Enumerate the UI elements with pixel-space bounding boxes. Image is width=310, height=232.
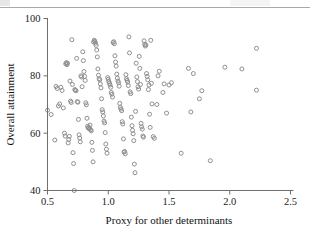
data-point — [129, 115, 133, 119]
y-tick-label: 80 — [30, 70, 41, 81]
data-point — [82, 70, 86, 74]
data-point — [100, 97, 104, 101]
data-point — [118, 101, 122, 105]
data-point — [70, 82, 74, 86]
data-point — [157, 69, 161, 73]
data-point — [208, 159, 212, 163]
data-point — [254, 46, 258, 50]
x-tick-label: 2.5 — [284, 196, 297, 207]
data-point — [101, 114, 105, 118]
data-point — [99, 86, 103, 90]
data-point — [71, 151, 75, 155]
data-point — [134, 61, 138, 65]
data-point — [223, 65, 227, 69]
data-point — [104, 147, 108, 151]
data-point — [70, 38, 74, 42]
data-point — [189, 110, 193, 114]
data-point — [186, 66, 190, 70]
data-point — [49, 113, 53, 117]
x-tick-label: 2.0 — [223, 196, 236, 207]
data-point — [83, 78, 87, 82]
x-axis-title: Proxy for other determinants — [106, 214, 233, 226]
data-point — [91, 160, 95, 164]
page-header-ghost-text — [0, 0, 310, 6]
data-point — [155, 103, 159, 107]
y-tick-label: 100 — [25, 13, 41, 24]
data-point — [53, 138, 57, 142]
y-tick-label: 40 — [30, 185, 41, 196]
data-point — [132, 162, 136, 166]
data-point — [149, 38, 153, 42]
data-point — [121, 137, 125, 141]
data-point — [138, 82, 142, 86]
axes-layer — [44, 18, 294, 195]
data-point — [240, 67, 244, 71]
data-point — [95, 55, 99, 59]
data-point — [197, 97, 201, 101]
data-point — [90, 140, 94, 144]
data-point — [200, 89, 204, 93]
data-point — [115, 72, 119, 76]
data-point — [128, 51, 132, 55]
data-point — [81, 59, 85, 63]
data-point — [96, 67, 100, 71]
data-point — [167, 83, 171, 87]
data-point — [138, 66, 142, 70]
data-point — [130, 124, 134, 128]
data-point — [72, 162, 76, 166]
data-point — [124, 73, 128, 77]
data-points-layer — [46, 35, 259, 193]
data-point — [146, 88, 150, 92]
data-point — [254, 88, 258, 92]
data-point — [135, 75, 139, 79]
x-tick-label: 0.5 — [41, 196, 54, 207]
data-point — [165, 111, 169, 115]
data-point — [114, 60, 118, 64]
data-point — [156, 74, 160, 78]
data-point — [127, 35, 131, 39]
data-point — [169, 81, 173, 85]
data-point — [76, 117, 80, 121]
data-point — [104, 142, 108, 146]
data-point — [61, 106, 65, 110]
data-point — [150, 102, 154, 106]
data-point — [85, 116, 89, 120]
data-point — [161, 90, 165, 94]
x-tick-label: 1.0 — [102, 196, 115, 207]
scatter-plot-figure: 4060801000.51.01.52.02.5Proxy for other … — [0, 0, 310, 232]
x-tick-label: 1.5 — [162, 196, 175, 207]
data-point — [75, 56, 79, 60]
data-point — [148, 112, 152, 116]
data-point — [98, 82, 102, 86]
data-point — [162, 82, 166, 86]
data-point — [137, 54, 141, 58]
data-point — [105, 151, 109, 155]
page-header-rule — [0, 7, 310, 8]
data-point — [80, 85, 84, 89]
chart-canvas: 4060801000.51.01.52.02.5Proxy for other … — [0, 0, 310, 232]
data-point — [133, 171, 137, 175]
data-point — [95, 48, 99, 52]
data-point — [134, 109, 138, 113]
data-point — [179, 151, 183, 155]
data-point — [132, 139, 136, 143]
data-point — [90, 148, 94, 152]
y-axis-title: Overall attainment — [4, 63, 16, 145]
data-point — [103, 131, 107, 135]
data-point — [191, 72, 195, 76]
data-point — [114, 64, 118, 68]
data-point — [81, 50, 85, 54]
data-point — [148, 125, 152, 129]
data-point — [113, 54, 117, 58]
y-tick-label: 60 — [30, 128, 41, 139]
